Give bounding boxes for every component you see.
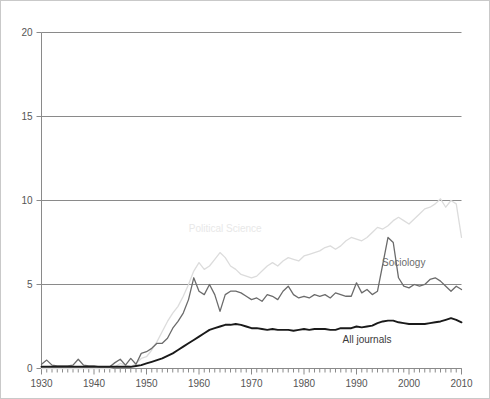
series-label-sociology: Sociology (382, 257, 425, 268)
chart-figure: 05101520 1930194019501960197019801990200… (0, 0, 490, 399)
x-tick-label-1940: 1940 (83, 378, 106, 389)
x-tick-label-1970: 1970 (240, 378, 263, 389)
line-chart: 05101520 1930194019501960197019801990200… (1, 1, 490, 399)
y-tick-label-20: 20 (21, 27, 33, 38)
x-tick-label-2000: 2000 (398, 378, 421, 389)
y-tick-labels: 05101520 (21, 27, 33, 374)
series-line-all-journals (42, 318, 462, 367)
x-tick-labels: 193019401950196019701980199020002010 (30, 378, 473, 389)
y-tick-label-15: 15 (21, 111, 33, 122)
y-tick-label-10: 10 (21, 195, 33, 206)
x-tick-label-1980: 1980 (293, 378, 316, 389)
series-label-political-science: Political Science (189, 223, 262, 234)
gridlines (42, 33, 462, 369)
x-tick-label-1950: 1950 (135, 378, 158, 389)
y-tick-marks (37, 33, 42, 369)
y-tick-label-0: 0 (27, 363, 33, 374)
series-label-all-journals: All journals (343, 334, 392, 345)
x-tick-label-1960: 1960 (188, 378, 211, 389)
x-tick-marks (42, 369, 462, 375)
x-tick-label-1930: 1930 (30, 378, 53, 389)
x-tick-label-1990: 1990 (345, 378, 368, 389)
y-tick-label-5: 5 (27, 279, 33, 290)
x-tick-label-2010: 2010 (450, 378, 473, 389)
